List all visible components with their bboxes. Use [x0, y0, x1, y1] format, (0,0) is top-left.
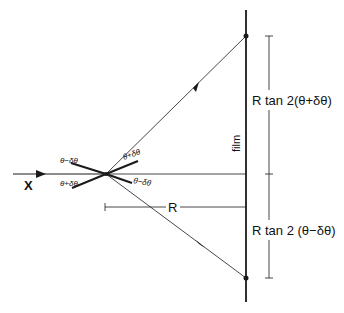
- angle-label-right-lower: θ−δθ: [133, 176, 153, 188]
- lower-ray-arrow-icon: [196, 240, 205, 248]
- upper-dimension-label: R tan 2(θ+δθ): [252, 93, 332, 108]
- film-label: film: [230, 135, 242, 152]
- r-label: R: [168, 200, 177, 215]
- lower-dimension-label: R tan 2 (θ−δθ): [252, 223, 335, 238]
- angle-label-left-lower: θ+δθ: [60, 179, 78, 188]
- upper-spot: [244, 34, 249, 39]
- incident-arrow-icon: [36, 170, 46, 178]
- crystal-center: [104, 172, 108, 176]
- crystal-plane-right-upper: [106, 161, 138, 174]
- lower-spot: [244, 276, 249, 281]
- angle-label-left-upper: θ−δθ: [60, 156, 78, 165]
- lower-diffracted-ray: [106, 174, 246, 278]
- incident-label: X: [24, 178, 33, 193]
- diffraction-diagram: θ−δθ θ+δθ θ+δθ θ−δθ X film R R tan 2(θ+δ…: [0, 0, 344, 313]
- crystal-plane-right-lower: [106, 174, 132, 183]
- angle-label-right-upper: θ+δθ: [122, 147, 142, 162]
